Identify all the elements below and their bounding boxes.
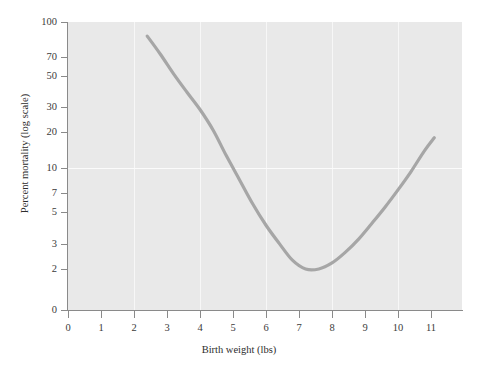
x-tick-mark-11: [431, 311, 432, 318]
x-tick-mark-8: [332, 311, 333, 318]
y-tick-mark-10: [61, 168, 68, 169]
x-axis-line: [67, 310, 463, 311]
x-tick-mark-0: [68, 311, 69, 318]
x-tick-label-8: 8: [320, 322, 344, 333]
x-axis-title: Birth weight (lbs): [0, 344, 478, 355]
y-tick-mark-5: [61, 212, 68, 213]
gridline-vertical-4: [200, 22, 201, 310]
x-tick-label-6: 6: [254, 322, 278, 333]
y-tick-mark-50: [61, 76, 68, 77]
y-tick-label-100: 100: [41, 17, 57, 27]
y-tick-label-5: 5: [52, 207, 57, 217]
y-tick-mark-100: [61, 22, 68, 23]
y-tick-label-30: 30: [47, 102, 58, 112]
x-tick-mark-1: [101, 311, 102, 318]
y-tick-label-2: 2: [52, 264, 57, 274]
y-tick-label-10: 10: [47, 163, 58, 173]
y-axis-title: Percent mortality (log scale): [19, 64, 30, 244]
y-tick-label-70: 70: [47, 52, 58, 62]
x-tick-mark-4: [200, 311, 201, 318]
x-tick-label-10: 10: [386, 322, 410, 333]
x-tick-mark-6: [266, 311, 267, 318]
x-tick-label-11: 11: [419, 322, 443, 333]
y-tick-label-50: 50: [47, 71, 58, 81]
y-tick-mark-20: [61, 132, 68, 133]
y-tick-label-0: 0: [52, 305, 57, 315]
x-tick-label-9: 9: [353, 322, 377, 333]
x-tick-mark-5: [233, 311, 234, 318]
y-axis-line: [67, 22, 68, 311]
gridline-vertical-8: [332, 22, 333, 310]
gridline-vertical-10: [398, 22, 399, 310]
gridline-vertical-2: [134, 22, 135, 310]
y-tick-mark-7: [61, 193, 68, 194]
gridline-vertical-6: [266, 22, 267, 310]
x-tick-label-2: 2: [122, 322, 146, 333]
y-tick-mark-70: [61, 57, 68, 58]
x-tick-label-7: 7: [287, 322, 311, 333]
y-tick-mark-30: [61, 107, 68, 108]
x-tick-label-3: 3: [155, 322, 179, 333]
chart-figure: 100 70 50 30 20 10 7 5 3 2 0 0 1 2 3 4 5…: [0, 0, 478, 366]
x-tick-label-0: 0: [56, 322, 80, 333]
y-tick-label-7: 7: [52, 188, 57, 198]
x-tick-mark-7: [299, 311, 300, 318]
y-tick-label-3: 3: [52, 239, 57, 249]
x-tick-mark-10: [398, 311, 399, 318]
y-tick-mark-3: [61, 244, 68, 245]
x-tick-mark-9: [365, 311, 366, 318]
x-tick-mark-3: [167, 311, 168, 318]
x-tick-label-4: 4: [188, 322, 212, 333]
y-tick-mark-2: [61, 269, 68, 270]
x-tick-label-5: 5: [221, 322, 245, 333]
plot-area: [68, 22, 462, 310]
y-tick-label-20: 20: [47, 127, 58, 137]
gridline-horizontal-10: [68, 168, 462, 169]
x-tick-label-1: 1: [89, 322, 113, 333]
y-tick-mark-0: [61, 310, 68, 311]
x-tick-mark-2: [134, 311, 135, 318]
